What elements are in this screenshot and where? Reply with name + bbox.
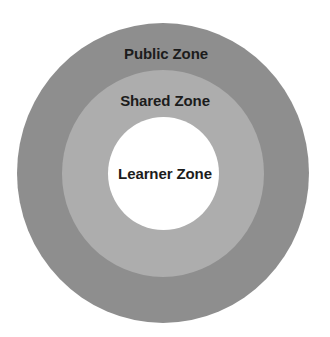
learner-zone-label: Learner Zone <box>0 165 330 183</box>
shared-zone-label: Shared Zone <box>0 92 330 110</box>
public-zone-label: Public Zone <box>1 45 330 63</box>
